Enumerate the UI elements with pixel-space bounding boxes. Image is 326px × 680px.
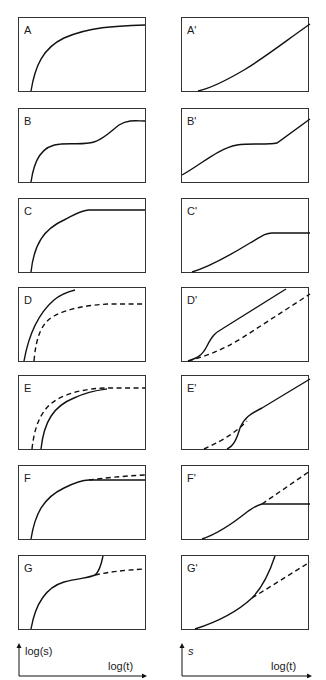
curve-b-prime [182,109,308,182]
panel-g: G [18,555,146,630]
curve-c [19,199,145,272]
panel-d-prime: D' [181,287,309,362]
panel-b-prime: B' [181,108,309,183]
panel-c: C [18,198,146,273]
panel-f: F [18,465,146,540]
x-axis-label-left: log(t) [108,660,133,672]
panel-f-prime: F' [181,465,309,540]
panel-e: E [18,375,146,450]
panel-g-prime: G' [181,555,309,630]
panel-e-prime: E' [181,375,309,450]
panel-d: D [18,287,146,362]
y-axis-label-left: log(s) [25,645,53,657]
y-axis-label-right: s [188,645,194,657]
curve-d-prime-dashed [182,288,308,361]
panel-a-prime: A' [181,17,309,92]
curve-g-dashed [19,556,145,629]
axes-key-right: s log(t) [179,642,313,678]
x-axis-label-right: log(t) [271,660,296,672]
curve-e-prime-dashed [182,376,308,449]
curve-b [19,109,145,182]
panel-b: B [18,108,146,183]
axes-key-left: log(s) log(t) [16,642,148,678]
curve-f-dashed [19,466,145,539]
curve-g-prime-dashed [182,556,308,629]
curve-c-prime [182,199,308,272]
curve-a [19,18,145,91]
curve-f-prime-dashed [182,466,308,539]
panel-a: A [18,17,146,92]
curve-e-dashed [19,376,145,449]
curve-d-dashed [19,288,145,361]
panel-c-prime: C' [181,198,309,273]
curve-a-prime [182,18,308,91]
